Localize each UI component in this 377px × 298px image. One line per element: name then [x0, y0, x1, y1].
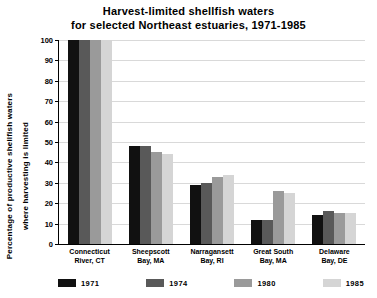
legend-swatch	[58, 279, 76, 287]
legend-item[interactable]: 1971	[58, 279, 99, 288]
x-axis-label-line: Delaware	[304, 247, 365, 256]
bar-group	[120, 40, 181, 244]
y-axis-tick-label: 90	[45, 56, 53, 65]
chart-title: Harvest-limited shellfish waters for sel…	[0, 4, 377, 32]
bar-group	[304, 40, 365, 244]
chart-legend: 1971197419801985	[58, 276, 364, 290]
x-axis-label: NarragansettBay, RI	[181, 247, 242, 265]
bar[interactable]	[223, 175, 234, 244]
legend-swatch	[146, 279, 164, 287]
bar[interactable]	[129, 146, 140, 244]
y-axis-tick-label: 100	[40, 36, 53, 45]
chart-title-line1: Harvest-limited shellfish waters	[103, 5, 274, 17]
y-axis-title-line2: where harvesting is limited	[18, 68, 32, 283]
x-axis-label-line: Bay, MA	[243, 256, 304, 265]
bar[interactable]	[345, 213, 356, 244]
x-axis-label-line: Bay, MA	[120, 256, 181, 265]
y-axis-title-line1: Percentage of productive shellfish water…	[2, 68, 16, 283]
x-axis-label-line: Bay, RI	[181, 256, 242, 265]
y-axis-tick-label: 80	[45, 76, 53, 85]
bar[interactable]	[284, 193, 295, 244]
y-axis-tick-label: 30	[45, 178, 53, 187]
y-axis-tick-label: 0	[49, 240, 53, 249]
x-axis-label-line: Sheepscott	[120, 247, 181, 256]
y-axis-tick-label: 70	[45, 97, 53, 106]
y-axis-tick-label: 50	[45, 138, 53, 147]
legend-label: 1985	[346, 279, 364, 288]
x-axis-label: DelawareBay, DE	[304, 247, 365, 265]
bar-group	[59, 40, 120, 244]
x-axis-label-line: River, CT	[59, 256, 120, 265]
chart-root: Harvest-limited shellfish waters for sel…	[0, 0, 377, 298]
legend-label: 1971	[81, 279, 99, 288]
x-axis-label: SheepscottBay, MA	[120, 247, 181, 265]
bar[interactable]	[251, 220, 262, 244]
legend-swatch	[323, 279, 341, 287]
bar[interactable]	[201, 183, 212, 244]
legend-item[interactable]: 1980	[234, 279, 275, 288]
legend-swatch	[234, 279, 252, 287]
y-axis-tick-label: 20	[45, 199, 53, 208]
bar[interactable]	[212, 177, 223, 244]
x-axis-label-line: Bay, DE	[304, 256, 365, 265]
y-axis-tick-label: 40	[45, 158, 53, 167]
plot-area: 0102030405060708090100 ConnecticutRiver,…	[58, 40, 365, 245]
legend-item[interactable]: 1985	[323, 279, 364, 288]
y-axis-tick-label: 10	[45, 219, 53, 228]
bar[interactable]	[190, 185, 201, 244]
bar[interactable]	[162, 154, 173, 244]
bar-group	[181, 40, 242, 244]
x-axis-label-line: Narragansett	[181, 247, 242, 256]
bar[interactable]	[68, 40, 79, 244]
bar[interactable]	[323, 211, 334, 244]
y-axis-title: Percentage of productive shellfish water…	[0, 34, 34, 249]
bar[interactable]	[101, 40, 112, 244]
bar[interactable]	[90, 40, 101, 244]
chart-title-line2: for selected Northeast estuaries, 1971-1…	[0, 18, 377, 32]
y-axis-tick-label: 60	[45, 117, 53, 126]
y-axis-tick	[55, 244, 59, 245]
bar[interactable]	[273, 191, 284, 244]
x-axis-label-line: Great South	[243, 247, 304, 256]
x-axis-label-line: Connecticut	[59, 247, 120, 256]
legend-label: 1974	[169, 279, 187, 288]
legend-item[interactable]: 1974	[146, 279, 187, 288]
x-axis-label: ConnecticutRiver, CT	[59, 247, 120, 265]
bar[interactable]	[262, 220, 273, 244]
x-axis-label: Great SouthBay, MA	[243, 247, 304, 265]
bar-groups	[59, 40, 365, 244]
bar[interactable]	[334, 213, 345, 244]
bar[interactable]	[140, 146, 151, 244]
legend-label: 1980	[257, 279, 275, 288]
bar-group	[243, 40, 304, 244]
bar[interactable]	[79, 40, 90, 244]
bar[interactable]	[151, 152, 162, 244]
bar[interactable]	[312, 215, 323, 244]
